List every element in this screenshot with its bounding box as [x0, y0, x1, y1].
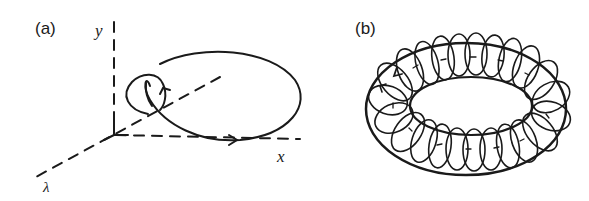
- torus-windings: [364, 33, 575, 171]
- torus-hole: [410, 77, 532, 135]
- panel-b-drawing: [0, 0, 589, 201]
- figure: (a) y x λ: [0, 0, 589, 201]
